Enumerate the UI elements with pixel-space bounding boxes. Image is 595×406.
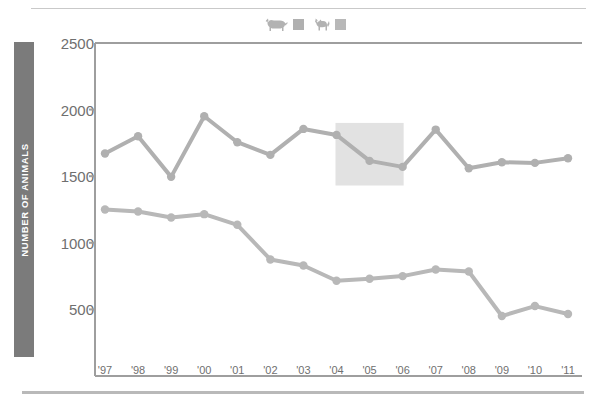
x-axis-tick-label: '09	[495, 364, 509, 376]
highlight-region	[336, 123, 404, 186]
data-point-dogs	[200, 112, 208, 120]
x-axis-labels: '97'98'99'00'01'02'03'04'05'06'07'08'09'…	[94, 364, 580, 384]
x-axis-tick-label: '00	[197, 364, 211, 376]
data-point-dogs	[332, 131, 340, 139]
data-point-cats	[564, 310, 572, 318]
x-axis-tick-label: '06	[395, 364, 409, 376]
data-point-dogs	[398, 163, 406, 171]
data-point-cats	[101, 205, 109, 213]
chart-plot-area	[0, 0, 595, 406]
data-point-dogs	[432, 125, 440, 133]
data-point-dogs	[233, 138, 241, 146]
x-axis-tick-label: '99	[164, 364, 178, 376]
data-point-dogs	[564, 154, 572, 162]
data-point-dogs	[365, 157, 373, 165]
data-point-cats	[167, 213, 175, 221]
data-point-cats	[266, 255, 274, 263]
bottom-divider	[22, 391, 584, 394]
data-point-cats	[299, 261, 307, 269]
data-point-dogs	[299, 125, 307, 133]
data-point-cats	[398, 272, 406, 280]
x-axis-tick-label: '07	[429, 364, 443, 376]
x-axis-tick-label: '97	[98, 364, 112, 376]
data-point-cats	[432, 265, 440, 273]
data-point-cats	[200, 210, 208, 218]
data-point-cats	[365, 275, 373, 283]
x-axis-tick-label: '98	[131, 364, 145, 376]
data-point-cats	[233, 221, 241, 229]
x-axis-tick-label: '04	[329, 364, 343, 376]
x-axis-tick-label: '03	[296, 364, 310, 376]
data-point-dogs	[498, 158, 506, 166]
data-point-dogs	[266, 151, 274, 159]
data-point-dogs	[531, 159, 539, 167]
x-axis-tick-label: '05	[362, 364, 376, 376]
data-point-dogs	[101, 149, 109, 157]
data-point-cats	[134, 207, 142, 215]
data-point-dogs	[167, 173, 175, 181]
x-axis-tick-label: '02	[263, 364, 277, 376]
data-point-cats	[498, 312, 506, 320]
x-axis-tick-label: '11	[561, 364, 575, 376]
data-point-cats	[332, 277, 340, 285]
line-series-cats	[105, 210, 568, 317]
data-point-cats	[531, 302, 539, 310]
data-point-cats	[465, 267, 473, 275]
x-axis-tick-label: '08	[462, 364, 476, 376]
x-axis-tick-label: '10	[528, 364, 542, 376]
data-point-dogs	[465, 164, 473, 172]
x-axis-tick-label: '01	[230, 364, 244, 376]
data-point-dogs	[134, 132, 142, 140]
